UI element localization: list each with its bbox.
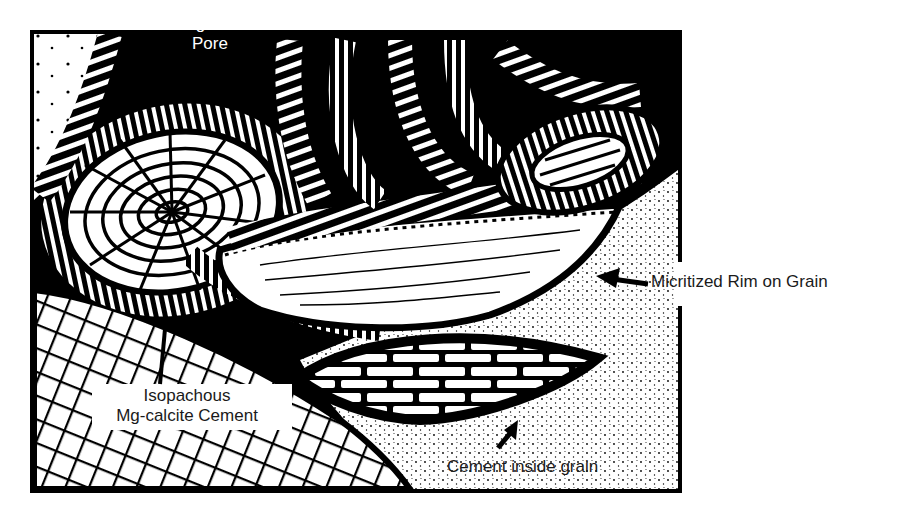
thin-section-diagram (0, 0, 905, 521)
intergranular-pore-label: Intergranular Pore (140, 14, 280, 54)
isopachous-cement-label-line1: Isopachous (72, 386, 302, 406)
intergranular-pore-label-line1: Intergranular (140, 14, 280, 34)
micritized-rim-label: Micritized Rim on Grain (651, 272, 828, 292)
cement-inside-grain-label: Cement inside grain (447, 457, 598, 477)
isopachous-cement-label: Isopachous Mg-calcite Cement (72, 386, 302, 426)
intergranular-pore-label-line2: Pore (140, 34, 280, 54)
isopachous-cement-label-line2: Mg-calcite Cement (72, 406, 302, 426)
